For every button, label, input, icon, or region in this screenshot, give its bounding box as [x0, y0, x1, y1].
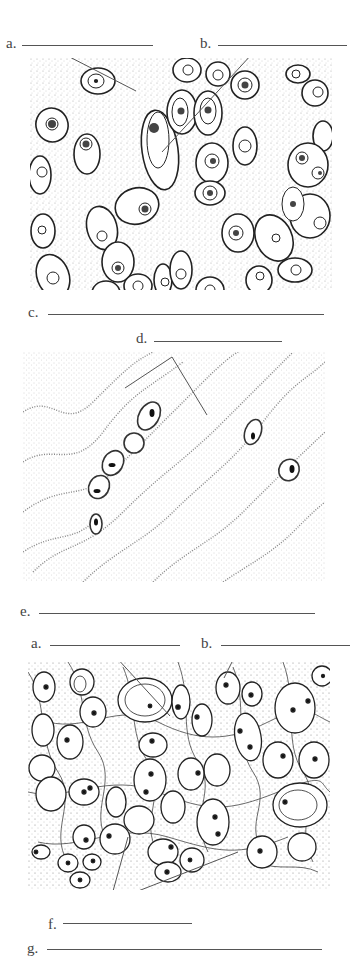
label-g-blank[interactable]: [47, 949, 322, 950]
label-a2-letter: a.: [31, 636, 41, 651]
label-g-letter: g.: [27, 941, 38, 956]
elastic-cartilage-diagram: [28, 662, 330, 890]
dense-cartilage-diagram: [23, 352, 325, 582]
label-c-blank[interactable]: [48, 314, 324, 315]
label-e-letter: e.: [20, 604, 30, 619]
label-a-blank[interactable]: [22, 45, 153, 46]
label-a2-blank[interactable]: [50, 645, 180, 646]
label-f-blank[interactable]: [63, 923, 192, 924]
label-e-blank[interactable]: [39, 613, 315, 614]
label-b2-blank[interactable]: [221, 645, 350, 646]
label-c-letter: c.: [28, 305, 38, 320]
label-b-blank[interactable]: [218, 45, 347, 46]
hyaline-cartilage-diagram: [30, 58, 332, 290]
label-b2-letter: b.: [201, 636, 212, 651]
label-f-letter: f.: [48, 917, 57, 932]
label-d-letter: d.: [136, 331, 147, 346]
label-a-letter: a.: [6, 36, 16, 51]
label-b-letter: b.: [200, 36, 211, 51]
label-d-blank[interactable]: [154, 341, 282, 342]
